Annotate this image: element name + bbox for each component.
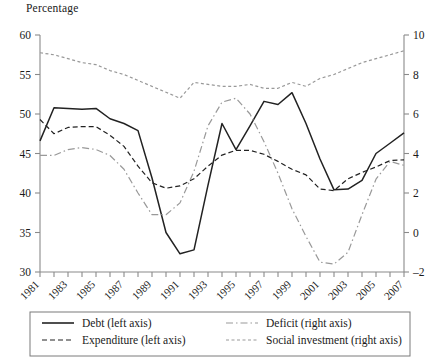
left-axis-tick-label: 60 xyxy=(20,29,32,41)
legend-label-2: Expenditure (left axis) xyxy=(82,334,186,347)
x-axis-tick-label: 1983 xyxy=(45,278,69,302)
x-axis-tick-label: 1999 xyxy=(269,278,293,302)
x-axis-tick-label: 1985 xyxy=(73,278,97,302)
left-axis-tick-label: 35 xyxy=(20,227,32,239)
series-line-3 xyxy=(40,51,404,98)
line-chart: 30354045505560–2024681019811983198519871… xyxy=(0,0,439,363)
x-axis-tick-label: 1987 xyxy=(101,278,125,302)
right-axis-tick-label: 2 xyxy=(413,187,419,199)
series-line-1 xyxy=(40,120,404,191)
x-axis-tick-label: 2003 xyxy=(325,278,349,302)
right-axis-tick-label: 6 xyxy=(413,108,419,120)
left-axis-tick-label: 45 xyxy=(20,148,32,160)
left-axis-tick-label: 50 xyxy=(20,108,32,120)
legend-label-1: Deficit (right axis) xyxy=(266,317,352,330)
x-axis-tick-label: 1997 xyxy=(241,278,265,302)
x-axis-tick-label: 1993 xyxy=(185,278,209,302)
x-axis-tick-label: 1989 xyxy=(129,278,153,302)
left-axis-tick-label: 30 xyxy=(20,266,32,278)
x-axis-tick-label: 2001 xyxy=(297,278,321,302)
chart-figure: Percentage 30354045505560–20246810198119… xyxy=(0,0,439,363)
left-axis-tick-label: 55 xyxy=(20,69,32,81)
right-axis-tick-label: 4 xyxy=(413,148,419,160)
series-line-0 xyxy=(40,93,404,254)
axis-title: Percentage xyxy=(26,2,78,14)
x-axis-tick-label: 1995 xyxy=(213,278,237,302)
right-axis-tick-label: –2 xyxy=(412,266,425,278)
right-axis-tick-label: 10 xyxy=(413,29,425,41)
left-axis-tick-label: 40 xyxy=(20,187,32,199)
x-axis-tick-label: 2007 xyxy=(381,278,405,302)
legend-label-3: Social investment (right axis) xyxy=(266,334,402,347)
x-axis-tick-label: 1991 xyxy=(157,278,181,302)
right-axis-tick-label: 8 xyxy=(413,69,419,81)
legend-label-0: Debt (left axis) xyxy=(82,317,152,330)
x-axis-tick-label: 1981 xyxy=(17,278,41,302)
right-axis-tick-label: 0 xyxy=(413,227,419,239)
x-axis-tick-label: 2005 xyxy=(353,278,377,302)
